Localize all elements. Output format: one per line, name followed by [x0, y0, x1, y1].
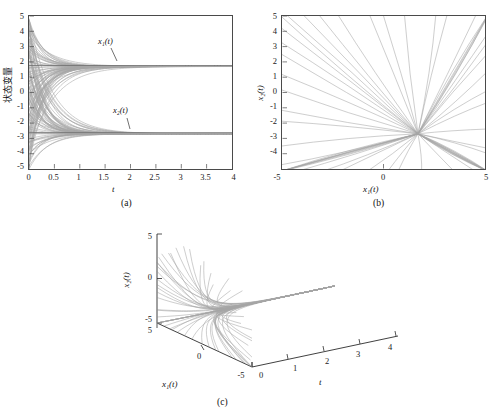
panel-b-ytick-m5: -5	[267, 172, 287, 182]
panel-b-ytick-3: 3	[261, 41, 277, 51]
panel-a-ytick-1: 1	[8, 71, 24, 81]
panel-b-xlabel: x₁(t)	[363, 184, 379, 194]
panel-a-ytick-4: 4	[8, 26, 24, 36]
panel-a-xtick-1: 1	[74, 172, 83, 182]
panel-a-plot-frame	[28, 15, 233, 170]
panel-b-ytick-1: 1	[261, 71, 277, 81]
panel-b-ytick-m2: -2	[257, 116, 277, 126]
panel-b-ytick-5: 5	[261, 11, 277, 21]
panel-a-xlabel: t	[112, 184, 115, 194]
panel-b: x₂(t) 5 4 3 2 1 0 -1 -2 -3 -4 -5 0 5 x₁(…	[245, 0, 495, 215]
panel-b-trajectories	[282, 16, 485, 169]
panel-a-xtick-4: 4	[229, 172, 238, 182]
panel-b-ytick-4: 4	[261, 26, 277, 36]
panel-b-ytick-2: 2	[261, 56, 277, 66]
panel-a: 状态变量 5 4 3 2 1 0 -1 -2 -3 -4 -5	[0, 0, 245, 215]
panel-a-xtick-15: 1.5	[95, 172, 112, 182]
panel-b-plot-frame	[281, 15, 486, 170]
panel-b-ytick-0: 0	[261, 86, 277, 96]
panel-b-ytick-m3: -3	[257, 131, 277, 141]
panel-a-xtick-25: 2.5	[146, 172, 163, 182]
panel-a-ytick-m4: -4	[4, 146, 24, 156]
panel-c: x₂(t) 5 0 -5 5 0 -5 0 1 2 3 4 x₁(t) t (c…	[100, 215, 420, 420]
panel-b-caption: (b)	[373, 198, 384, 208]
panel-a-label-x1: x₁(t)	[98, 36, 113, 46]
panel-a-ytick-m3: -3	[4, 131, 24, 141]
panel-b-ytick-m4: -4	[257, 146, 277, 156]
panel-a-xtick-2: 2	[125, 172, 134, 182]
panel-a-xtick-3: 3	[176, 172, 185, 182]
panel-a-trajectories	[29, 16, 232, 169]
panel-b-xtick-5: 5	[481, 172, 491, 182]
panel-a-xtick-05: 0.5	[45, 172, 62, 182]
panel-a-ytick-m1: -1	[4, 101, 24, 111]
panel-a-xtick-35: 3.5	[197, 172, 214, 182]
panel-c-axes-and-trajectories	[100, 215, 420, 390]
panel-b-xtick-0: 0	[378, 172, 388, 182]
panel-a-ytick-3: 3	[8, 41, 24, 51]
panel-a-ytick-5: 5	[8, 11, 24, 21]
panel-c-x1label: x₁(t)	[162, 379, 178, 389]
panel-c-tlabel: t	[319, 377, 322, 387]
panel-a-label-x2: x₂(t)	[113, 105, 128, 115]
panel-a-ytick-m5: -5	[4, 161, 24, 171]
panel-a-caption: (a)	[121, 198, 132, 208]
panel-a-ytick-m2: -2	[4, 116, 24, 126]
panel-a-ytick-0: 0	[8, 86, 24, 96]
panel-c-caption: (c)	[217, 397, 228, 407]
panel-a-xtick-0: 0	[24, 172, 33, 182]
panel-b-ytick-m1: -1	[257, 101, 277, 111]
panel-a-ytick-2: 2	[8, 56, 24, 66]
